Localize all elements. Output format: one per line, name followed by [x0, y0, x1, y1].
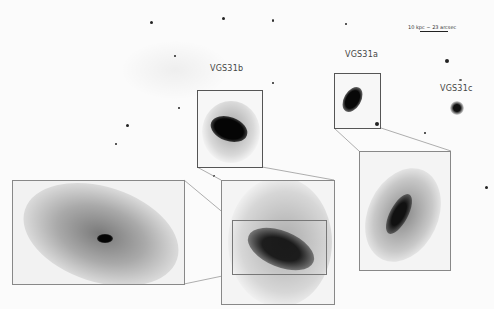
galaxy-image-figure: VGS31b VGS31a VGS31c 10 kpc ~ 23 arcsec	[0, 0, 494, 309]
star	[178, 107, 180, 109]
star	[126, 124, 129, 127]
inset-nucleus	[97, 234, 113, 243]
galaxy-vgs31c	[450, 101, 464, 115]
star	[375, 122, 379, 126]
vgs31a-cutout	[334, 73, 381, 129]
vgs31b-core-zoom-inset	[12, 180, 185, 285]
label-vgs31b: VGS31b	[210, 64, 243, 73]
inset-disk	[12, 180, 185, 285]
vgs31a-zoom-inset	[359, 151, 451, 271]
label-vgs31c: VGS31c	[440, 84, 473, 93]
star	[485, 186, 488, 189]
star	[272, 82, 274, 84]
star	[150, 21, 153, 24]
vgs31b-zoom-inset	[221, 180, 335, 305]
star	[272, 19, 274, 22]
scale-bar-label: 10 kpc ~ 23 arcsec	[408, 24, 456, 30]
zoom-region-rectangle	[232, 220, 327, 275]
scale-bar-line	[420, 31, 448, 32]
star	[445, 59, 449, 63]
star	[222, 17, 225, 20]
star	[424, 132, 426, 134]
star	[459, 79, 462, 81]
star	[213, 175, 215, 177]
vgs31a-core	[338, 84, 366, 116]
star	[115, 143, 117, 145]
star	[345, 23, 347, 25]
star	[174, 55, 176, 57]
vgs31b-cutout	[197, 90, 263, 168]
label-vgs31a: VGS31a	[345, 50, 378, 59]
